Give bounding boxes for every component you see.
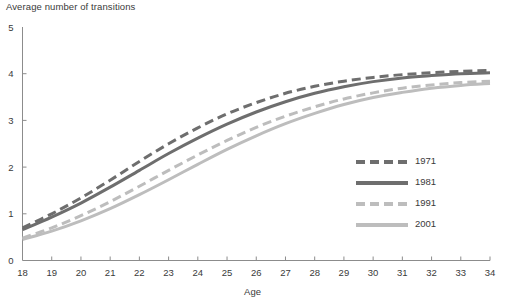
legend-label-1991: 1991 [415,197,436,209]
y-tick-label: 2 [8,162,13,173]
x-axis-tick-labels: 1819202122232425262728293031323334 [17,267,495,278]
legend-label-1971: 1971 [415,155,436,167]
y-tick-label: 3 [8,115,13,126]
plot-area: 012345 181920212223242526272829303132333… [0,0,505,307]
legend-item-1981[interactable]: 1981 [356,176,496,197]
x-axis-tick-marks [52,257,490,261]
x-tick-label: 30 [368,267,379,278]
x-tick-label: 18 [17,267,28,278]
y-tick-label: 1 [8,208,13,219]
legend-label-2001: 2001 [415,218,436,230]
legend: 1971198119912001 [356,155,496,239]
legend-item-1971[interactable]: 1971 [356,155,496,176]
x-tick-label: 27 [280,267,291,278]
x-tick-label: 25 [222,267,233,278]
x-tick-label: 23 [163,267,174,278]
legend-swatch-2001 [356,223,408,227]
x-tick-label: 32 [426,267,437,278]
x-tick-label: 29 [339,267,350,278]
x-tick-label: 26 [251,267,262,278]
chart-container: Average number of transitions 012345 181… [0,0,505,307]
y-tick-label: 4 [8,68,13,79]
legend-item-2001[interactable]: 2001 [356,218,496,239]
y-axis-tick-marks [23,74,27,214]
legend-swatch-1991 [356,202,408,206]
x-tick-label: 24 [193,267,204,278]
y-axis-tick-labels: 012345 [8,22,13,267]
x-tick-label: 28 [309,267,320,278]
x-tick-label: 20 [76,267,87,278]
legend-item-1991[interactable]: 1991 [356,197,496,218]
x-tick-label: 22 [134,267,145,278]
y-tick-label: 0 [8,255,13,266]
x-tick-label: 31 [397,267,408,278]
x-tick-label: 21 [105,267,116,278]
x-tick-label: 19 [46,267,57,278]
legend-swatch-1981 [356,181,408,185]
x-axis-title: Age [0,286,505,297]
x-tick-label: 33 [455,267,466,278]
legend-swatch-1971 [356,160,408,164]
legend-label-1981: 1981 [415,176,436,188]
y-tick-label: 5 [8,22,13,33]
x-tick-label: 34 [485,267,496,278]
